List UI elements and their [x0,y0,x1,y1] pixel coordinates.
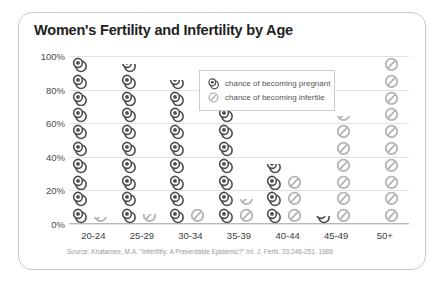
infertile-icon [383,56,400,73]
gridline [69,224,409,225]
pregnant-icon [71,106,88,123]
infertile-icon [286,207,303,224]
infertile-icon [335,174,352,191]
pregnant-icon [71,140,88,157]
y-axis-tick-label: 20% [5,185,65,196]
pregnant-icon [71,56,88,73]
pregnant-unit-stack [168,80,185,224]
y-axis-tick-label: 0% [5,219,65,230]
pregnant-unit-stack [265,164,282,224]
infertile-icon [207,91,220,104]
pregnant-unit-stack [217,103,234,224]
infertile-icon [383,123,400,140]
infertile-icon [383,174,400,191]
infertile-icon [238,199,255,207]
legend-label-infertile: chance of becoming infertile [225,93,325,102]
chart-legend: chance of becoming pregnant chance of be… [199,70,335,111]
pregnant-icon [314,216,331,224]
x-axis-tick-label: 50+ [355,230,415,241]
infertile-unit-stack [383,56,400,224]
pregnant-icon [168,140,185,157]
page-title: Women's Fertility and Infertility by Age [34,22,293,38]
pregnant-icon [120,90,137,107]
pregnant-icon [217,174,234,191]
infertile-icon [286,190,303,207]
legend-item-pregnant: chance of becoming pregnant [207,76,327,90]
pregnant-icon [265,164,282,174]
pregnant-icon [120,174,137,191]
infertile-icon [383,90,400,107]
pregnant-icon [217,140,234,157]
y-axis-tick-label: 80% [5,84,65,95]
infertile-icon [335,116,352,123]
pregnant-icon [168,106,185,123]
pregnant-icon [168,123,185,140]
infertile-icon [383,157,400,174]
chart-column [360,56,409,224]
chart-column [69,56,118,224]
infertile-unit-stack [286,174,303,224]
pregnant-icon [71,190,88,207]
pregnant-icon [217,123,234,140]
pregnant-icon [265,207,282,224]
infertile-icon [141,214,158,224]
pregnant-icon [168,157,185,174]
y-axis-tick-label: 40% [5,151,65,162]
infertile-icon [335,140,352,157]
infertile-unit-stack [335,116,352,224]
pregnant-icon [217,207,234,224]
pregnant-icon [120,140,137,157]
y-axis-tick-label: 60% [5,118,65,129]
chart-column [118,56,167,224]
infertile-unit-stack [189,209,206,224]
infertile-icon [383,106,400,123]
infertile-unit-stack [141,214,158,224]
pregnant-unit-stack [314,216,331,224]
legend-item-infertile: chance of becoming infertile [207,90,327,104]
infertile-icon [92,217,109,224]
pregnant-icon [265,190,282,207]
legend-label-pregnant: chance of becoming pregnant [225,79,330,88]
pregnant-icon [207,77,220,90]
pregnant-icon [168,190,185,207]
pregnant-icon [168,207,185,224]
source-note: Source: Khatamee, M.A. "Infertility: A P… [67,248,333,255]
infertile-icon [238,207,255,224]
infertile-unit-stack [238,199,255,224]
pregnant-icon [168,90,185,107]
pregnant-icon [168,80,185,90]
infertile-icon [335,207,352,224]
pregnant-icon [71,73,88,90]
pregnant-unit-stack [71,56,88,224]
pregnant-icon [168,174,185,191]
pregnant-icon [265,174,282,191]
pregnant-icon [217,157,234,174]
pregnant-icon [120,64,137,72]
pregnant-icon [120,207,137,224]
y-axis-tick-label: 100% [5,51,65,62]
pregnant-icon [71,174,88,191]
pregnant-icon [120,190,137,207]
pregnant-icon [120,106,137,123]
pregnant-icon [120,157,137,174]
pregnant-unit-stack [120,64,137,224]
infertile-icon [383,190,400,207]
infertile-icon [335,190,352,207]
infertile-icon [383,207,400,224]
pregnant-icon [217,190,234,207]
pregnant-icon [120,73,137,90]
pregnant-icon [71,157,88,174]
infertile-icon [383,73,400,90]
infertile-unit-stack [92,217,109,224]
infertile-icon [286,174,303,191]
pregnant-icon [120,123,137,140]
infertile-icon [335,123,352,140]
chart-card: Women's Fertility and Infertility by Age… [18,12,426,270]
pregnant-icon [71,207,88,224]
infertile-icon [383,140,400,157]
pregnant-icon [71,123,88,140]
pregnant-icon [71,90,88,107]
infertile-icon [335,157,352,174]
infertile-icon [189,209,206,224]
